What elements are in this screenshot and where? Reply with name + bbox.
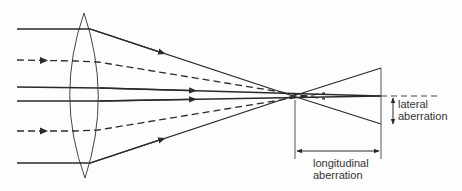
spherical-aberration-diagram: lateral aberration longitudinal aberrati… [0, 0, 462, 191]
intermediate-rays [17, 60, 325, 131]
lateral-label-line2: aberration [398, 110, 448, 122]
longitudinal-label-line2: aberration [313, 169, 363, 181]
paraxial-rays [17, 87, 381, 101]
convex-lens [70, 13, 99, 178]
ray-diagram [0, 0, 462, 191]
marginal-rays [17, 29, 381, 163]
intermediate-ray-arrows [40, 57, 48, 135]
lateral-label-line1: lateral [398, 98, 428, 110]
longitudinal-label-line1: longitudinal [313, 157, 369, 169]
